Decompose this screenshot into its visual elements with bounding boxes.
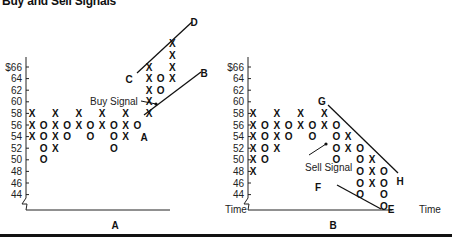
- y-tick-label: $66: [227, 62, 244, 73]
- panel-label: A: [111, 220, 118, 231]
- y-tick-label: 44: [233, 189, 245, 200]
- arrow-head-icon: [324, 142, 327, 145]
- pnf-x-mark: X: [52, 120, 59, 131]
- pnf-o-mark: O: [356, 143, 364, 154]
- pnf-x-mark: X: [250, 143, 257, 154]
- pnf-x-mark: X: [345, 131, 352, 142]
- pnf-o-mark: O: [332, 143, 340, 154]
- pnf-x-mark: X: [122, 131, 129, 142]
- point-label-h: H: [396, 176, 403, 187]
- pnf-o-mark: O: [285, 120, 293, 131]
- signal-annotation: Sell Signal: [305, 162, 352, 173]
- pnf-x-mark: X: [122, 108, 129, 119]
- y-tick-label: 52: [233, 143, 245, 154]
- pnf-o-mark: O: [110, 120, 118, 131]
- pnf-o-mark: O: [40, 120, 48, 131]
- pnf-x-mark: X: [169, 73, 176, 84]
- pnf-o-mark: O: [332, 120, 340, 131]
- pnf-x-mark: X: [297, 108, 304, 119]
- y-tick-label: 54: [11, 131, 23, 142]
- pnf-o-mark: O: [87, 120, 95, 131]
- y-tick-label: 56: [11, 120, 23, 131]
- pnf-o-mark: O: [332, 131, 340, 142]
- pnf-x-mark: X: [273, 143, 280, 154]
- y-tick-label: 64: [233, 73, 245, 84]
- pnf-o-mark: O: [63, 131, 71, 142]
- y-tick-label: 50: [11, 154, 23, 165]
- pnf-x-mark: X: [273, 120, 280, 131]
- pnf-o-mark: O: [110, 131, 118, 142]
- point-label-e: E: [388, 204, 395, 215]
- pnf-o-mark: O: [157, 73, 165, 84]
- pnf-o-mark: O: [87, 131, 95, 142]
- pnf-x-mark: X: [29, 108, 36, 119]
- pnf-x-mark: X: [52, 143, 59, 154]
- y-tick-label: 54: [233, 131, 245, 142]
- annotation-arrow: [309, 144, 326, 155]
- pnf-o-mark: O: [356, 154, 364, 165]
- pnf-o-mark: O: [309, 131, 317, 142]
- pnf-o-mark: O: [261, 120, 269, 131]
- pnf-x-mark: X: [122, 120, 129, 131]
- pnf-x-mark: X: [345, 143, 352, 154]
- y-tick-label: 52: [11, 143, 23, 154]
- y-tick-label: 48: [11, 166, 23, 177]
- signal-annotation: Buy Signal: [90, 96, 138, 107]
- arrow-head-icon: [154, 102, 157, 105]
- y-tick-label: 60: [11, 96, 23, 107]
- y-tick-label: 64: [11, 73, 23, 84]
- pnf-x-mark: X: [146, 73, 153, 84]
- pnf-x-mark: X: [29, 120, 36, 131]
- pnf-o-mark: O: [380, 178, 388, 189]
- pnf-x-mark: X: [250, 108, 257, 119]
- point-label-a: A: [140, 132, 147, 143]
- pnf-o-mark: O: [380, 189, 388, 200]
- pnf-x-mark: X: [75, 120, 82, 131]
- pnf-charts: $666462605856545250484644XXXOOOOXXXXOOXX…: [0, 0, 452, 241]
- point-label-f: F: [315, 182, 321, 193]
- y-tick-label: 48: [233, 166, 245, 177]
- pnf-o-mark: O: [261, 154, 269, 165]
- y-tick-label: 60: [233, 96, 245, 107]
- y-tick-label: 58: [233, 108, 245, 119]
- point-label-c: C: [125, 74, 132, 85]
- x-axis-label: Time: [419, 204, 441, 215]
- pnf-o-mark: O: [40, 154, 48, 165]
- y-tick-label: 46: [233, 178, 245, 189]
- y-tick-label: 46: [11, 178, 23, 189]
- pnf-o-mark: O: [309, 120, 317, 131]
- pnf-x-mark: X: [169, 62, 176, 73]
- pnf-x-mark: X: [169, 50, 176, 61]
- pnf-o-mark: O: [40, 131, 48, 142]
- trendline: [137, 22, 192, 73]
- pnf-x-mark: X: [321, 120, 328, 131]
- pnf-o-mark: O: [133, 120, 141, 131]
- pnf-x-mark: X: [369, 166, 376, 177]
- y-tick-label: 50: [233, 154, 245, 165]
- pnf-o-mark: O: [356, 178, 364, 189]
- pnf-x-mark: X: [369, 178, 376, 189]
- pnf-x-mark: X: [250, 120, 257, 131]
- pnf-x-mark: X: [99, 108, 106, 119]
- panel-label: B: [329, 220, 336, 231]
- pnf-o-mark: O: [356, 166, 364, 177]
- y-tick-label: 62: [233, 85, 245, 96]
- pnf-x-mark: X: [52, 108, 59, 119]
- y-tick-label: 56: [233, 120, 245, 131]
- y-tick-label: 44: [11, 189, 23, 200]
- pnf-o-mark: O: [63, 120, 71, 131]
- pnf-o-mark: O: [110, 143, 118, 154]
- y-tick-label: 62: [11, 85, 23, 96]
- pnf-x-mark: X: [250, 154, 257, 165]
- pnf-x-mark: X: [75, 108, 82, 119]
- pnf-o-mark: O: [157, 85, 165, 96]
- pnf-x-mark: X: [29, 131, 36, 142]
- pnf-o-mark: O: [40, 143, 48, 154]
- point-label-b: B: [200, 68, 207, 79]
- pnf-o-mark: O: [261, 131, 269, 142]
- pnf-x-mark: X: [369, 154, 376, 165]
- point-label-g: G: [318, 96, 326, 107]
- pnf-x-mark: X: [250, 166, 257, 177]
- pnf-x-mark: X: [297, 120, 304, 131]
- bottom-rule: [0, 234, 452, 237]
